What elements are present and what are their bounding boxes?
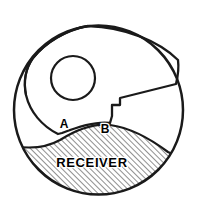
- receiver-cross-section-diagram: A B RECEIVER: [0, 0, 197, 220]
- bore-hole-circle: [51, 56, 95, 100]
- diagram-root: A B RECEIVER: [0, 0, 197, 220]
- label-receiver: RECEIVER: [56, 155, 127, 170]
- label-point-b: B: [101, 122, 110, 136]
- label-point-a: A: [60, 117, 69, 131]
